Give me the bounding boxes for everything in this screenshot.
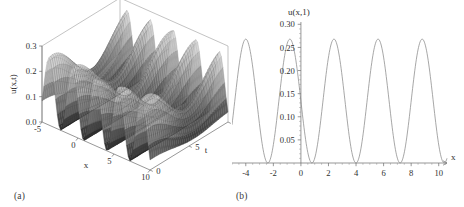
- data-curve: [232, 39, 447, 163]
- y-tick-label: 0.20: [280, 66, 295, 76]
- z-tick-label-3d: 0.1: [26, 92, 37, 102]
- panel-caption-b: (b): [236, 191, 248, 201]
- z-tick-label-3d: 0.0: [26, 117, 37, 127]
- wave-curve: [232, 39, 447, 163]
- t-tick-label-3d: 0: [156, 166, 160, 176]
- z-tick-label-3d: 0.3: [26, 41, 37, 51]
- z-tick-label-3d: 0.2: [26, 66, 37, 76]
- x-axis-label-3d: x: [84, 160, 89, 170]
- surface-plot-svg: -5051005100.00.10.20.3xtu(x,t): [0, 0, 232, 190]
- t-axis-label-3d: t: [205, 145, 208, 155]
- axes-2d: [232, 22, 447, 166]
- figure-container: -5051005100.00.10.20.3xtu(x,t) (a) -4-20…: [0, 0, 464, 207]
- x-tick-label: 6: [381, 168, 386, 178]
- y-tick-label: 0.30: [280, 19, 295, 29]
- x-tick-label: 2: [326, 168, 330, 178]
- y-tick-label: 0.10: [280, 112, 295, 122]
- x-tick-label-3d: 5: [107, 156, 111, 166]
- x-tick-label: 0: [299, 168, 303, 178]
- x-axis-label: x: [451, 152, 456, 162]
- panel-b-line-plot: -4-202468100.050.100.150.200.250.30xu(x,…: [232, 0, 464, 207]
- line-plot-svg: -4-202468100.050.100.150.200.250.30xu(x,…: [232, 0, 464, 190]
- y-axis-label: u(x,1): [288, 7, 310, 17]
- y-tick-label: 0.15: [280, 89, 295, 99]
- y-tick-label: 0.25: [280, 43, 295, 53]
- surface-mesh: [42, 10, 228, 161]
- panel-a-surface-plot: -5051005100.00.10.20.3xtu(x,t) (a): [0, 0, 232, 207]
- axis-labels-2d: -4-202468100.050.100.150.200.250.30xu(x,…: [242, 7, 456, 178]
- x-tick-label: 10: [434, 168, 443, 178]
- y-tick-label: 0.05: [280, 135, 295, 145]
- x-tick-label: -4: [242, 168, 250, 178]
- t-tick-label-3d: 5: [195, 142, 199, 152]
- x-tick-label: 8: [409, 168, 413, 178]
- z-axis-label-3d: u(x,t): [8, 74, 18, 94]
- x-tick-label-3d: 10: [141, 172, 150, 182]
- panel-caption-a: (a): [14, 191, 25, 201]
- frame-edge: [42, 0, 120, 46]
- x-tick-label: 4: [354, 168, 359, 178]
- x-tick-label-3d: 0: [71, 140, 75, 150]
- x-tick-label: -2: [270, 168, 277, 178]
